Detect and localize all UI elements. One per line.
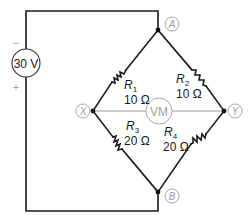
r2-zigzag (192, 70, 206, 86)
node-label-b: B (165, 189, 179, 203)
svg-text:R3: R3 (126, 119, 140, 135)
r3-value: 20 Ω (124, 134, 150, 148)
positive-terminal-sign: + (13, 82, 19, 93)
node-label-y: Y (228, 104, 242, 118)
top-wire (26, 11, 158, 49)
junction-a (156, 28, 161, 33)
r1-label: R1 10 Ω (124, 78, 150, 107)
svg-text:R4: R4 (164, 125, 178, 141)
node-label-x: X (76, 104, 90, 118)
r2-label: R2 10 Ω (176, 72, 202, 101)
negative-terminal-sign: − (13, 37, 19, 49)
battery-label: 30 V (14, 57, 39, 71)
svg-text:X: X (79, 106, 87, 117)
r2-value: 10 Ω (176, 87, 202, 101)
junction-x (91, 109, 96, 114)
voltmeter-label: VM (150, 105, 168, 119)
r4-value: 20 Ω (163, 140, 189, 154)
svg-text:R2: R2 (176, 72, 190, 88)
circuit-diagram: 30 V − + VM (0, 0, 252, 222)
r4-label: R4 20 Ω (163, 125, 189, 154)
svg-text:R1: R1 (124, 78, 138, 94)
r3-zigzag (113, 136, 122, 150)
node-label-a: A (165, 17, 179, 31)
junction-y (222, 109, 227, 114)
r1-value: 10 Ω (124, 93, 150, 107)
svg-text:B: B (169, 191, 176, 202)
voltmeter: VM (93, 98, 224, 124)
svg-text:A: A (168, 19, 176, 30)
r3-label: R3 20 Ω (124, 119, 150, 148)
r4-zigzag (191, 134, 206, 144)
junction-b (156, 190, 161, 195)
